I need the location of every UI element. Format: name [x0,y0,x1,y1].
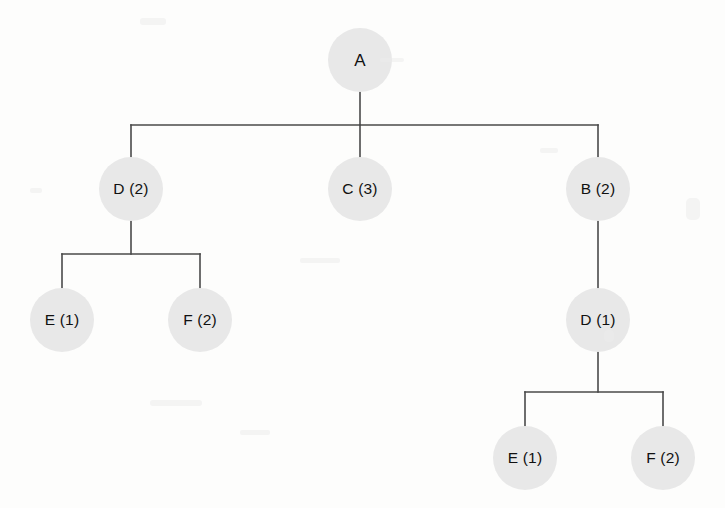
tree-node-b2[interactable]: B (2) [566,157,630,221]
tree-node-e1-left[interactable]: E (1) [30,288,94,352]
tree-node-label: D (1) [580,312,615,328]
tree-node-d2[interactable]: D (2) [99,157,163,221]
tree-node-label: E (1) [508,450,543,466]
tree-diagram: A D (2) C (3) B (2) E (1) F (2) D (1) E … [0,0,725,508]
tree-node-label: C (3) [342,181,377,197]
tree-node-label: A [354,52,366,69]
tree-node-f2-bottom[interactable]: F (2) [631,426,695,490]
tree-node-label: F (2) [183,312,217,328]
tree-node-c3[interactable]: C (3) [328,157,392,221]
tree-node-label: E (1) [45,312,80,328]
tree-node-label: D (2) [113,181,148,197]
tree-node-label: B (2) [581,181,616,197]
tree-node-d1[interactable]: D (1) [566,288,630,352]
tree-node-f2-left[interactable]: F (2) [168,288,232,352]
tree-node-label: F (2) [646,450,680,466]
tree-node-a[interactable]: A [328,28,392,92]
tree-node-e1-bottom[interactable]: E (1) [493,426,557,490]
